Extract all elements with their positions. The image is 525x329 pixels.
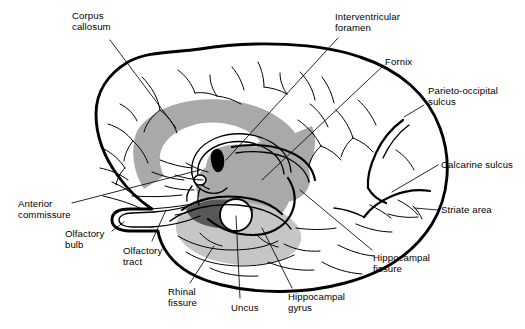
label-parieto-occipital-sulcus: Parieto-occipital sulcus [428,85,498,107]
label-anterior-commissure: Anterior commissure [18,198,71,220]
label-olfactory-bulb: Olfactory bulb [65,228,104,250]
label-hippocampal-fissure: Hippocampal fissure [373,252,430,274]
label-olfactory-tract: Olfactory tract [123,245,162,267]
label-uncus: Uncus [231,302,259,313]
label-striate-area: Striate area [441,204,492,215]
label-corpus-callosum: Corpus callosum [72,10,111,32]
label-hippocampal-gyrus: Hippocampal gyrus [288,291,345,313]
uncus-circle [220,199,252,231]
brain-anatomy-figure: Corpus callosum Interventricular foramen… [0,0,525,329]
label-fornix: Fornix [385,56,412,67]
label-rhinal-fissure: Rhinal fissure [168,286,197,308]
label-calcarine-sulcus: Calcarine sulcus [441,159,513,170]
label-interventricular-foramen: Interventricular foramen [335,11,400,33]
